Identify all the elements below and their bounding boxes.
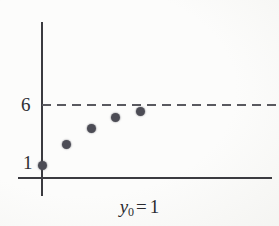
data-point xyxy=(111,113,120,122)
data-point xyxy=(87,124,96,133)
plot-area: 6 1 xyxy=(0,0,279,226)
y-tick-label-6: 6 xyxy=(21,95,31,114)
data-point xyxy=(136,107,145,116)
y-tick-label-1: 1 xyxy=(23,153,33,172)
asymptote-dashed-line xyxy=(42,104,278,106)
data-point xyxy=(38,161,47,170)
figure-panel: 6 1 y0=1 ( xyxy=(0,0,279,226)
x-axis-line xyxy=(18,177,272,179)
data-point xyxy=(62,140,71,149)
